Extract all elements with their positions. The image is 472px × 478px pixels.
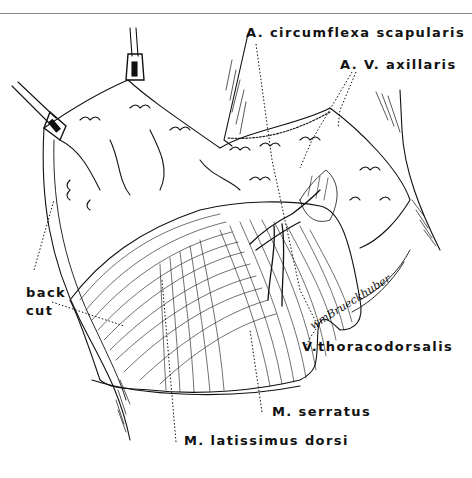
artist-signature: wmBrueckhuber (308, 272, 394, 332)
label-v-thoracodorsalis: V.thoracodorsalis (302, 340, 453, 354)
label-m-serratus: M. serratus (272, 405, 371, 419)
fat-flap-outline (44, 80, 410, 248)
right-body-outline (400, 90, 440, 250)
leader-axillaris-1 (300, 72, 352, 168)
retractor-top-icon (126, 28, 144, 80)
left-body-outline (43, 128, 130, 440)
shoulder-wedge (224, 34, 248, 146)
retractor-left-icon (12, 82, 66, 140)
label-back: back (26, 286, 66, 300)
label-cut: cut (26, 304, 53, 318)
leader-axillaris-2 (338, 72, 356, 128)
label-a-circumflexa-scapularis: A. circumflexa scapularis (246, 26, 465, 40)
leader-circumflexa (256, 44, 318, 326)
label-a-v-axillaris: A. V. axillaris (340, 58, 457, 72)
label-m-latissimus-dorsi: M. latissimus dorsi (184, 434, 349, 448)
